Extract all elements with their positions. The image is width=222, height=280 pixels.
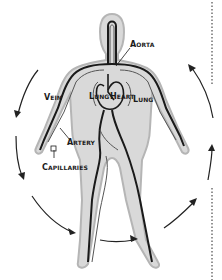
body-silhouette bbox=[35, 14, 188, 268]
label-artery: Artery bbox=[67, 139, 95, 147]
arrow-mid-left bbox=[16, 136, 22, 176]
capillary-box bbox=[51, 146, 56, 151]
label-lung-left: Lung bbox=[89, 93, 109, 101]
circulatory-diagram: Aorta Vein Lung Heart Lung Artery Capill… bbox=[0, 0, 222, 280]
arrow-lower-left bbox=[32, 196, 72, 232]
label-vein: Vein bbox=[44, 94, 62, 102]
arrow-upper-left bbox=[18, 70, 38, 114]
label-aorta: Aorta bbox=[130, 41, 154, 49]
arrow-mid-right bbox=[208, 148, 212, 180]
arrow-lower-right bbox=[164, 202, 194, 228]
arrow-upper-right bbox=[192, 68, 213, 118]
body-illustration bbox=[0, 0, 222, 280]
label-heart: Heart bbox=[110, 93, 134, 101]
label-lung-right: Lung bbox=[133, 96, 153, 104]
arrow-bottom bbox=[100, 240, 134, 242]
label-capillaries: Capillaries bbox=[42, 164, 88, 172]
